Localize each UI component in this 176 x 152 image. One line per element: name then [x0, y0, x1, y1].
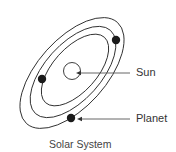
planet-icon [112, 36, 120, 44]
orbit-middle [15, 12, 132, 133]
sun-label: Sun [136, 67, 156, 78]
planet-arrowhead-icon [77, 117, 82, 121]
orbit-inner [29, 23, 121, 118]
sun-icon [64, 63, 81, 80]
planet-icon [38, 75, 46, 83]
sun-arrowhead-icon [76, 71, 81, 75]
planet-icon [67, 114, 75, 122]
planet-label: Planet [136, 113, 167, 124]
diagram-title: Solar System [49, 139, 111, 150]
